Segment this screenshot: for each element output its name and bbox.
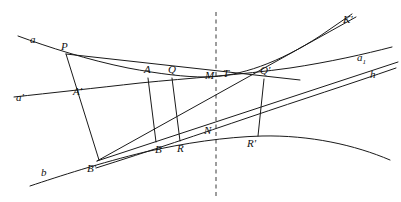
label-a-prime: a'	[16, 91, 25, 103]
label-Q-prime: Q'	[260, 64, 271, 76]
label-h: h	[370, 68, 376, 80]
geometry-figure: a P a' A' A Q M T Q' K' a1 h b B' B R N …	[0, 0, 401, 202]
figure-canvas: a P a' A' A Q M T Q' K' a1 h b B' B R N …	[0, 0, 401, 202]
label-K-prime: K'	[342, 13, 353, 25]
chord-Q-R	[172, 78, 180, 141]
label-a-sub1-subscript: 1	[363, 58, 367, 66]
label-A-prime: A'	[72, 85, 83, 97]
curve-b-lower	[30, 136, 390, 186]
label-T: T	[223, 67, 230, 79]
ray-P-to-B-prime	[66, 54, 99, 160]
label-P: P	[60, 40, 68, 52]
label-R: R	[176, 142, 184, 154]
label-B-prime: B'	[87, 162, 97, 174]
label-N: N	[203, 124, 212, 136]
label-b: b	[41, 166, 47, 178]
label-B: B	[155, 143, 162, 155]
label-M: M	[204, 69, 215, 81]
label-a: a	[30, 33, 36, 45]
label-Q: Q	[168, 63, 176, 75]
label-R-prime: R'	[246, 137, 257, 149]
label-A: A	[143, 63, 151, 75]
